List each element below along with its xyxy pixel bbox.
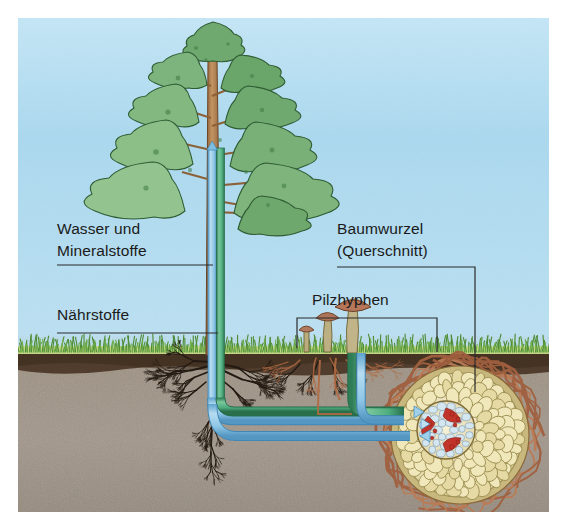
nutrient-pipe-trunk [217,148,225,398]
water-pipe-trunk [208,148,217,398]
diagram-canvas: Wasser und Mineralstoffe Nährstoffe Baum… [0,0,567,528]
label-baumwurzel-line2: (Querschnitt) [337,242,428,259]
label-wasser-line1: Wasser und [57,220,140,237]
label-wasser-line2: Mineralstoffe [57,242,147,259]
label-naehrstoffe-text: Nährstoffe [57,306,129,323]
label-pilzhyphen-text: Pilzhyphen [312,291,389,308]
mycorrhiza-diagram: Wasser und Mineralstoffe Nährstoffe Baum… [0,0,567,528]
label-baumwurzel-line1: Baumwurzel [337,220,423,237]
